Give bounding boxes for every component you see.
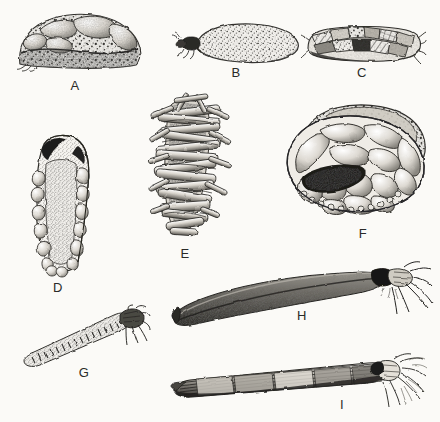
figure-label-E: E bbox=[175, 247, 195, 260]
figure-G-case bbox=[20, 305, 150, 367]
figure-label-C: C bbox=[352, 66, 372, 79]
setae-H bbox=[381, 288, 398, 299]
figure-E-case bbox=[148, 96, 234, 238]
figure-G-drawing bbox=[20, 305, 150, 367]
figure-E-drawing bbox=[148, 96, 234, 238]
figure-A-case bbox=[14, 10, 146, 72]
texture-D bbox=[45, 160, 77, 265]
figure-label-H: H bbox=[292, 309, 312, 322]
figure-label-G: G bbox=[74, 366, 94, 379]
texture-G bbox=[24, 313, 131, 366]
figure-C-case bbox=[300, 18, 426, 68]
figure-B-case bbox=[172, 18, 304, 70]
figure-I-case bbox=[168, 355, 436, 417]
figure-label-D: D bbox=[48, 281, 68, 294]
figure-F-drawing bbox=[282, 96, 434, 224]
figure-I-drawing bbox=[168, 355, 436, 417]
figure-D-case bbox=[22, 130, 102, 278]
larva-G bbox=[120, 305, 150, 345]
figure-A-drawing bbox=[14, 10, 146, 72]
figure-label-A: A bbox=[65, 79, 85, 92]
larva-H bbox=[371, 262, 432, 314]
figure-label-B: B bbox=[226, 66, 246, 79]
larva-B bbox=[172, 32, 200, 59]
figure-C-drawing bbox=[300, 18, 426, 68]
figure-label-I: I bbox=[332, 398, 352, 411]
figure-label-F: F bbox=[353, 227, 373, 240]
texture-A bbox=[20, 14, 141, 68]
figure-B-drawing bbox=[172, 18, 304, 70]
illustration-plate: A bbox=[0, 0, 440, 422]
texture-H bbox=[174, 272, 384, 325]
figure-F-case bbox=[282, 96, 434, 224]
texture-C bbox=[308, 26, 420, 61]
figure-D-drawing bbox=[22, 130, 102, 278]
